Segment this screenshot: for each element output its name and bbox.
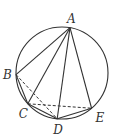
circle-diagram: ABCDE [0,0,118,135]
point-label-E: E [95,111,105,125]
solid-chords [16,28,92,119]
geometry-figure: ABCDE [0,0,118,135]
segment-AE [70,28,92,109]
point-label-A: A [66,12,76,26]
point-label-D: D [52,123,63,135]
segment-BC [16,75,28,104]
point-label-B: B [2,68,12,82]
point-label-C: C [19,107,28,121]
segment-AB [16,28,70,75]
segment-AD [57,28,70,119]
segment-AC [28,28,70,104]
